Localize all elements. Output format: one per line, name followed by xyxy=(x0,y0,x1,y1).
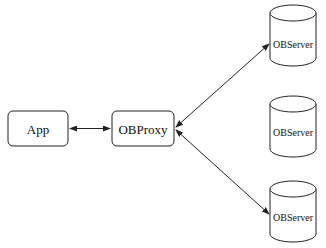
server2-node: OBServer xyxy=(270,96,316,157)
app-label: App xyxy=(27,122,49,137)
edge-proxy-server1 xyxy=(176,44,269,127)
proxy-node: OBProxy xyxy=(112,111,174,146)
server1-label: OBServer xyxy=(273,39,314,50)
server3-node: OBServer xyxy=(270,181,316,242)
server1-node: OBServer xyxy=(270,5,316,66)
server3-label: OBServer xyxy=(273,212,314,223)
app-node: App xyxy=(8,111,68,146)
edge-proxy-server3 xyxy=(176,130,269,214)
architecture-diagram: App OBProxy OBServer OBServer OBServer xyxy=(0,0,326,248)
server2-label: OBServer xyxy=(273,127,314,138)
proxy-label: OBProxy xyxy=(118,122,168,137)
